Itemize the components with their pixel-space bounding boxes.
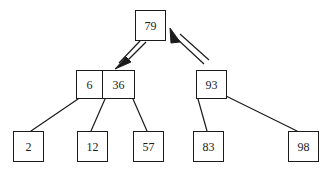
edge-left-to-leaf-57 [133,99,147,131]
leaf-node-98-key: 98 [289,132,318,161]
leaf-node-83-key: 83 [194,132,223,161]
edge-left-to-leaf-12 [91,99,105,131]
internal-node-left-key-1: 6 [77,71,102,98]
internal-node-left[interactable]: 6 36 [76,70,135,99]
leaf-node-12-key: 12 [78,132,107,161]
arrow-internal-right-to-root-head [170,28,180,43]
leaf-node-2-key: 2 [14,132,43,161]
leaf-node-83[interactable]: 83 [193,131,224,162]
arrow-internal-right-to-root-line-b [180,34,209,60]
internal-node-left-key-2: 36 [102,71,134,98]
leaf-node-98[interactable]: 98 [288,131,319,162]
root-node[interactable]: 79 [135,10,166,41]
leaf-node-12[interactable]: 12 [77,131,108,162]
edge-left-to-leaf-2 [31,99,78,131]
internal-node-right-key: 93 [197,71,226,98]
arrow-internal-right-to-root [175,34,209,64]
btree-diagram: 79 6 36 93 2 12 57 83 98 [0,0,330,174]
arrow-root-to-internal-left-line-a [119,41,140,63]
edge-right-to-leaf-98 [226,96,297,131]
internal-node-right[interactable]: 93 [196,70,227,99]
leaf-node-57[interactable]: 57 [133,131,164,162]
edge-right-to-leaf-83 [198,99,207,131]
leaf-node-57-key: 57 [134,132,163,161]
root-node-key: 79 [136,11,165,40]
leaf-node-2[interactable]: 2 [13,131,44,162]
